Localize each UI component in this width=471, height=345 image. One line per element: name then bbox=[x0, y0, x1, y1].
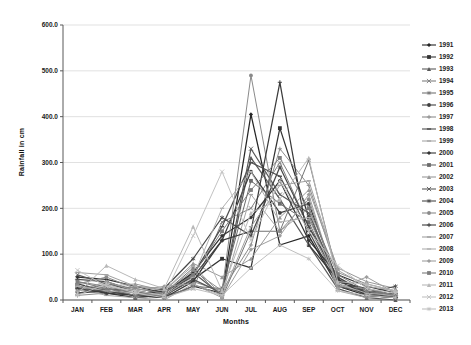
legend: 1991199219931994199519961997199819992000… bbox=[422, 41, 454, 312]
svg-text:OCT: OCT bbox=[331, 306, 345, 313]
legend-label-1995: 1995 bbox=[439, 89, 454, 96]
legend-item-2003: 2003 bbox=[422, 185, 454, 192]
svg-text:DEC: DEC bbox=[389, 306, 403, 313]
legend-label-2006: 2006 bbox=[439, 221, 454, 228]
legend-item-2013: 2013 bbox=[422, 305, 454, 312]
legend-item-2007: 2007 bbox=[422, 233, 454, 240]
legend-label-1996: 1996 bbox=[439, 101, 454, 108]
svg-text:200.0: 200.0 bbox=[42, 205, 59, 212]
legend-item-1998: 1998 bbox=[422, 125, 454, 132]
legend-label-2012: 2012 bbox=[439, 293, 454, 300]
legend-label-1992: 1992 bbox=[439, 53, 454, 60]
x-axis-title: Months bbox=[223, 318, 249, 325]
legend-item-2006: 2006 bbox=[422, 221, 454, 228]
rainfall-line-chart: 0.0100.0200.0300.0400.0500.0600.0JANFEBM… bbox=[0, 0, 471, 345]
legend-label-1991: 1991 bbox=[439, 41, 454, 48]
legend-item-2012: 2012 bbox=[422, 293, 454, 300]
svg-text:300.0: 300.0 bbox=[42, 159, 59, 166]
legend-item-2010: 2010 bbox=[422, 269, 454, 276]
legend-label-2009: 2009 bbox=[439, 257, 454, 264]
svg-text:400.0: 400.0 bbox=[42, 113, 59, 120]
svg-text:AUG: AUG bbox=[273, 306, 287, 313]
legend-label-1993: 1993 bbox=[439, 65, 454, 72]
series-2007 bbox=[75, 181, 397, 296]
svg-text:JUN: JUN bbox=[216, 306, 229, 313]
legend-item-2001: 2001 bbox=[422, 161, 454, 168]
legend-label-2008: 2008 bbox=[439, 245, 454, 252]
legend-item-1997: 1997 bbox=[422, 113, 454, 120]
x-axis-ticks: JANFEBMARAPRMAYJUNJULAUGSEPOCTNOVDEC bbox=[63, 300, 410, 313]
legend-item-1993: 1993 bbox=[422, 65, 454, 72]
legend-item-1994: 1994 bbox=[422, 77, 454, 84]
series-1993 bbox=[75, 156, 397, 302]
legend-label-1998: 1998 bbox=[439, 125, 454, 132]
svg-text:MAR: MAR bbox=[128, 306, 143, 313]
legend-item-2009: 2009 bbox=[422, 257, 454, 264]
legend-label-2010: 2010 bbox=[439, 269, 454, 276]
legend-label-2013: 2013 bbox=[439, 305, 454, 312]
legend-label-2011: 2011 bbox=[439, 281, 453, 288]
legend-item-2004: 2004 bbox=[422, 197, 454, 204]
gridlines bbox=[63, 25, 410, 300]
legend-label-2005: 2005 bbox=[439, 209, 454, 216]
svg-text:MAY: MAY bbox=[186, 306, 201, 313]
legend-item-2005: 2005 bbox=[422, 209, 454, 216]
legend-item-2002: 2002 bbox=[422, 173, 454, 180]
svg-text:FEB: FEB bbox=[100, 306, 113, 313]
legend-label-2002: 2002 bbox=[439, 173, 454, 180]
y-axis-title: Rainfall in cm bbox=[18, 128, 25, 176]
svg-text:SEP: SEP bbox=[302, 306, 316, 313]
legend-item-2000: 2000 bbox=[422, 149, 454, 156]
svg-text:600.0: 600.0 bbox=[42, 21, 59, 28]
legend-item-2011: 2011 bbox=[422, 281, 453, 288]
svg-text:500.0: 500.0 bbox=[42, 67, 59, 74]
legend-item-1991: 1991 bbox=[422, 41, 454, 48]
svg-text:NOV: NOV bbox=[360, 306, 375, 313]
svg-text:0.0: 0.0 bbox=[49, 296, 58, 303]
legend-label-1999: 1999 bbox=[439, 137, 454, 144]
svg-text:APR: APR bbox=[157, 306, 171, 313]
legend-label-2001: 2001 bbox=[439, 161, 454, 168]
chart-figure: Rainfall in cm Months 0.0100.0200.0300.0… bbox=[0, 0, 471, 345]
legend-item-1999: 1999 bbox=[422, 137, 454, 144]
legend-item-1996: 1996 bbox=[422, 101, 454, 108]
legend-label-1997: 1997 bbox=[439, 113, 454, 120]
legend-label-2007: 2007 bbox=[439, 233, 454, 240]
svg-text:JAN: JAN bbox=[71, 306, 84, 313]
legend-item-1995: 1995 bbox=[422, 89, 454, 96]
series-2000 bbox=[75, 179, 397, 295]
legend-label-2004: 2004 bbox=[439, 197, 454, 204]
legend-label-2003: 2003 bbox=[439, 185, 454, 192]
legend-label-1994: 1994 bbox=[439, 77, 454, 84]
legend-item-2008: 2008 bbox=[422, 245, 454, 252]
svg-text:JUL: JUL bbox=[245, 306, 257, 313]
legend-label-2000: 2000 bbox=[439, 149, 454, 156]
legend-item-1992: 1992 bbox=[422, 53, 454, 60]
svg-text:100.0: 100.0 bbox=[42, 250, 59, 257]
y-axis-ticks: 0.0100.0200.0300.0400.0500.0600.0 bbox=[42, 21, 63, 303]
